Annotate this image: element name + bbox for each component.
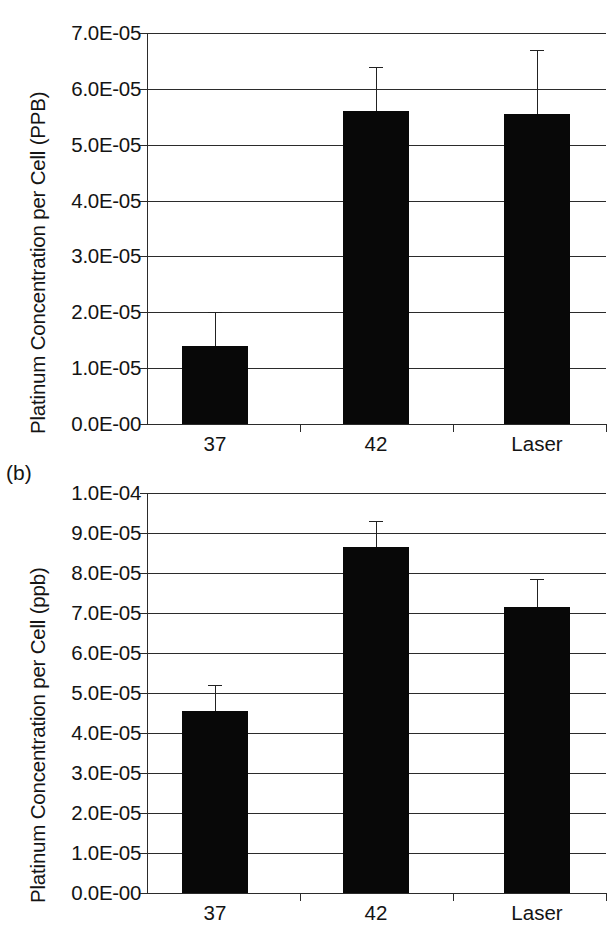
y-tick-mark (140, 813, 147, 814)
y-tick-mark (140, 573, 147, 574)
y-tick-mark (140, 368, 147, 369)
error-bar-cap (530, 579, 544, 580)
x-tick-label: Laser (511, 434, 562, 455)
y-tick-label: 5.0E-05 (71, 134, 141, 155)
x-tick-label: 42 (365, 903, 388, 924)
y-tick-mark (140, 89, 147, 90)
gridline (147, 893, 606, 894)
y-axis-line (147, 33, 148, 424)
y-tick-label: 4.0E-05 (71, 190, 141, 211)
bar-37 (182, 711, 248, 893)
y-tick-label: 1.0E-05 (71, 358, 141, 379)
bar-37 (182, 346, 248, 424)
error-bar-cap (208, 685, 222, 686)
y-tick-label: 9.0E-05 (71, 523, 141, 544)
x-tick-mark (453, 424, 454, 432)
x-tick-mark (606, 893, 607, 901)
y-tick-label: 1.0E-05 (71, 843, 141, 864)
y-tick-mark (140, 773, 147, 774)
figure-root: Platinum Concentration per Cell (PPB) 0.… (0, 0, 608, 931)
error-bar-stem (537, 50, 538, 114)
x-tick-label: Laser (511, 903, 562, 924)
y-tick-mark (140, 653, 147, 654)
y-tick-label: 7.0E-05 (71, 23, 141, 44)
y-tick-label: 0.0E-00 (71, 883, 141, 904)
x-tick-label: 42 (365, 434, 388, 455)
panel-a-plot-area (147, 33, 606, 424)
y-tick-mark (140, 893, 147, 894)
y-tick-mark (140, 424, 147, 425)
y-tick-label: 5.0E-05 (71, 683, 141, 704)
error-bar-cap (369, 521, 383, 522)
error-bar-stem (376, 521, 377, 547)
y-tick-label: 6.0E-05 (71, 643, 141, 664)
y-tick-label: 8.0E-05 (71, 563, 141, 584)
y-tick-mark (140, 256, 147, 257)
y-tick-mark (140, 853, 147, 854)
y-tick-mark (140, 733, 147, 734)
panel-b-plot-area (147, 493, 606, 893)
y-tick-mark (140, 145, 147, 146)
panel-b-label: (b) (6, 461, 32, 485)
y-tick-label: 2.0E-05 (71, 302, 141, 323)
y-tick-mark (140, 493, 147, 494)
bar-42 (343, 111, 409, 424)
bar-laser (504, 114, 570, 424)
x-tick-mark (606, 424, 607, 432)
error-bar-cap (530, 50, 544, 51)
x-tick-label: 37 (204, 903, 227, 924)
chart-panel-b: (b) Platinum Concentration per Cell (ppb… (0, 460, 608, 931)
panel-b-y-tick-labels: 0.0E-001.0E-052.0E-053.0E-054.0E-055.0E-… (29, 493, 141, 893)
y-tick-label: 3.0E-05 (71, 246, 141, 267)
chart-panel-a: Platinum Concentration per Cell (PPB) 0.… (0, 0, 608, 460)
error-bar-stem (215, 685, 216, 711)
gridline (147, 33, 606, 34)
y-tick-label: 0.0E-00 (71, 414, 141, 435)
y-tick-mark (140, 312, 147, 313)
x-tick-mark (300, 424, 301, 432)
error-bar-stem (215, 312, 216, 346)
error-bar-cap (208, 312, 222, 313)
x-tick-mark (300, 893, 301, 901)
y-tick-label: 6.0E-05 (71, 79, 141, 100)
y-tick-mark (140, 201, 147, 202)
x-tick-mark (453, 893, 454, 901)
y-tick-mark (140, 613, 147, 614)
panel-a-y-tick-labels: 0.0E-001.0E-052.0E-053.0E-054.0E-055.0E-… (29, 33, 141, 424)
y-tick-label: 7.0E-05 (71, 603, 141, 624)
y-tick-label: 3.0E-05 (71, 763, 141, 784)
bar-laser (504, 607, 570, 893)
y-tick-label: 2.0E-05 (71, 803, 141, 824)
y-tick-label: 1.0E-04 (71, 483, 141, 504)
x-tick-label: 37 (204, 434, 227, 455)
gridline (147, 424, 606, 425)
y-tick-mark (140, 533, 147, 534)
bar-42 (343, 547, 409, 893)
y-tick-label: 4.0E-05 (71, 723, 141, 744)
error-bar-stem (537, 579, 538, 607)
y-tick-mark (140, 33, 147, 34)
error-bar-cap (369, 67, 383, 68)
gridline (147, 493, 606, 494)
error-bar-stem (376, 67, 377, 112)
y-tick-mark (140, 693, 147, 694)
